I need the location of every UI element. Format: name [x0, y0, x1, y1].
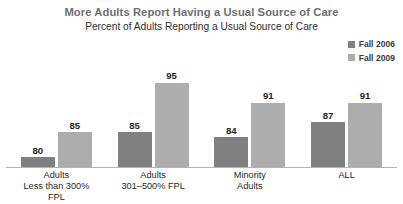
bar[interactable] [311, 122, 345, 167]
category-label: AdultsLess than 300% FPL [19, 170, 93, 203]
bar-value-label: 91 [360, 91, 371, 101]
bar-wrapper: 85 [118, 60, 152, 167]
bar-group: 8491 [214, 60, 285, 167]
category-label-line1: Adults [140, 170, 166, 180]
bar-wrapper: 91 [251, 60, 285, 167]
legend-swatch-icon-fall-2006 [348, 41, 355, 48]
bar-wrapper: 95 [155, 60, 189, 167]
category-label: ALL [310, 170, 384, 203]
bar-wrapper: 84 [214, 60, 248, 167]
category-label-line2: Adults [213, 181, 287, 192]
bar[interactable] [251, 103, 285, 167]
bar-group: 8595 [118, 60, 189, 167]
category-label-line2: Less than 300% FPL [19, 181, 93, 203]
bar[interactable] [21, 157, 55, 167]
chart-legend: Fall 2006 Fall 2009 [348, 40, 395, 62]
bar-value-label: 84 [226, 126, 237, 136]
chart-title: More Adults Report Having a Usual Source… [0, 6, 403, 18]
bar-value-label: 85 [129, 121, 140, 131]
bar-wrapper: 80 [21, 60, 55, 167]
bar[interactable] [58, 132, 92, 167]
bar-groups: 8085859584918791 [8, 60, 395, 167]
x-axis-line [6, 167, 397, 168]
bar-group: 8791 [311, 60, 382, 167]
plot-area: 8085859584918791 [0, 60, 403, 168]
bar[interactable] [155, 83, 189, 167]
legend-label-fall-2006: Fall 2006 [359, 40, 395, 49]
category-label-line1: Minority [234, 170, 266, 180]
bar-wrapper: 85 [58, 60, 92, 167]
bar-value-label: 85 [70, 121, 81, 131]
legend-item-fall-2006[interactable]: Fall 2006 [348, 40, 395, 49]
bar-group: 8085 [21, 60, 92, 167]
bar-value-label: 95 [166, 71, 177, 81]
bar-value-label: 80 [33, 146, 44, 156]
bar[interactable] [118, 132, 152, 167]
category-label-line2: 301–500% FPL [116, 181, 190, 192]
category-label: MinorityAdults [213, 170, 287, 203]
category-labels: AdultsLess than 300% FPLAdults301–500% F… [8, 170, 395, 203]
chart-container: More Adults Report Having a Usual Source… [0, 0, 403, 204]
bar[interactable] [214, 137, 248, 167]
bar-wrapper: 91 [348, 60, 382, 167]
bar-wrapper: 87 [311, 60, 345, 167]
chart-subtitle: Percent of Adults Reporting a Usual Sour… [0, 21, 403, 32]
bar[interactable] [348, 103, 382, 167]
bar-value-label: 91 [263, 91, 274, 101]
bar-value-label: 87 [323, 111, 334, 121]
category-label: Adults301–500% FPL [116, 170, 190, 203]
category-label-line1: ALL [338, 170, 354, 180]
category-label-line1: Adults [44, 170, 70, 180]
